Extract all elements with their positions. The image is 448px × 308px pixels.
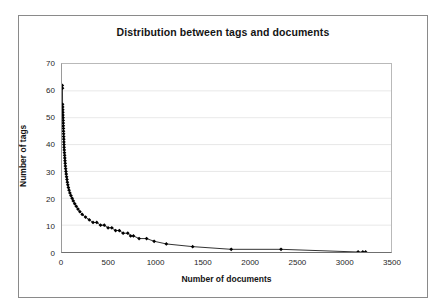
data-point — [67, 186, 71, 190]
y-axis-title: Number of tags — [18, 127, 28, 187]
y-tick-label-60: 60 — [31, 86, 55, 95]
data-point — [132, 234, 136, 238]
x-tick-label-3000: 3000 — [336, 258, 354, 267]
y-tick-label-30: 30 — [31, 167, 55, 176]
series-markers — [62, 84, 368, 252]
x-tick-label-3500: 3500 — [383, 258, 401, 267]
data-point — [356, 250, 360, 252]
x-tick-label-1000: 1000 — [147, 258, 165, 267]
y-tick-label-40: 40 — [31, 140, 55, 149]
gridlines — [62, 91, 391, 225]
chart-figure: Distribution between tags and documents … — [0, 0, 448, 308]
y-tick-label-70: 70 — [31, 59, 55, 68]
y-tick-label-10: 10 — [31, 221, 55, 230]
y-tick-label-50: 50 — [31, 113, 55, 122]
plot-svg — [62, 64, 391, 252]
data-point — [62, 86, 64, 90]
data-point — [164, 242, 168, 246]
data-point — [229, 247, 233, 251]
x-tick-label-2000: 2000 — [241, 258, 259, 267]
y-tick-label-20: 20 — [31, 194, 55, 203]
plot-area — [61, 63, 392, 253]
chart-title: Distribution between tags and documents — [19, 26, 427, 38]
y-tick-label-0: 0 — [31, 249, 55, 258]
chart-frame: Distribution between tags and documents … — [18, 15, 428, 298]
data-point — [191, 245, 195, 249]
x-tick-label-2500: 2500 — [289, 258, 307, 267]
x-tick-label-0: 0 — [59, 258, 63, 267]
data-point — [152, 239, 156, 243]
data-point — [137, 237, 141, 241]
data-point — [66, 183, 70, 187]
data-point — [145, 237, 149, 241]
data-point — [279, 247, 283, 251]
x-tick-label-500: 500 — [102, 258, 115, 267]
x-axis-title: Number of documents — [61, 274, 392, 284]
data-point — [364, 250, 368, 252]
x-tick-label-1500: 1500 — [194, 258, 212, 267]
